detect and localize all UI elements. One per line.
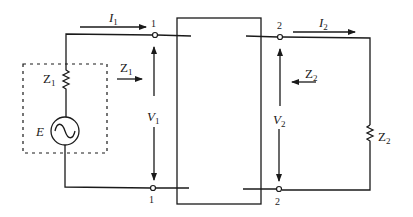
load-impedance-z2-label: Z2 — [378, 129, 390, 146]
source-circuit — [23, 34, 191, 188]
generator-dashed-boundary — [23, 64, 107, 153]
port2-bottom-terminal — [277, 187, 282, 192]
source-impedance-resistor-icon — [63, 64, 69, 117]
two-port-circuit-diagram: 1 1 I1 Z1 Z1 E V1 2 2 I2 Z2 V2 Z2 — [0, 0, 413, 217]
load-impedance-resistor-icon — [282, 125, 373, 190]
output-impedance-z2-label: Z2 — [305, 66, 317, 83]
port2-top-terminal — [278, 35, 283, 40]
current-i2-label: I2 — [318, 15, 328, 32]
port1-top-terminal — [153, 33, 158, 38]
two-port-network-box — [177, 18, 261, 204]
current-i1-label: I1 — [108, 10, 118, 27]
voltage-v2-label: V2 — [273, 112, 285, 129]
input-impedance-z1-label: Z1 — [120, 60, 132, 77]
port1-bottom-label: 1 — [149, 194, 154, 205]
port1-bottom-terminal — [151, 186, 156, 191]
port2-top-label: 2 — [277, 20, 282, 31]
port2-bottom-label: 2 — [275, 196, 280, 207]
port1-top-label: 1 — [151, 18, 156, 29]
source-emf-label: E — [35, 124, 44, 139]
voltage-v1-label: V1 — [147, 109, 159, 126]
source-impedance-z1-label: Z1 — [43, 71, 55, 88]
